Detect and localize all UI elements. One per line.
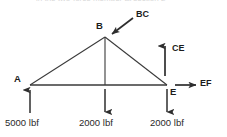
force-label-ef: EF bbox=[200, 79, 212, 88]
joint-label-e: E bbox=[170, 87, 176, 97]
bc-force-arrow bbox=[112, 18, 133, 34]
truss-free-body-diagram-figure: in the two-force member at section 2 bbox=[0, 0, 227, 137]
joint-label-b: B bbox=[96, 21, 103, 31]
applied-load-arrows bbox=[30, 89, 167, 113]
force-label-ce: CE bbox=[172, 44, 185, 53]
force-label-bc: BC bbox=[136, 10, 149, 19]
load-magnitude-e: 2000 lbf bbox=[150, 118, 184, 128]
load-magnitude-a: 5000 lbf bbox=[5, 118, 39, 128]
load-magnitude-center: 2000 lbf bbox=[79, 118, 113, 128]
joint-label-a: A bbox=[14, 74, 21, 84]
truss-members bbox=[30, 37, 167, 85]
member-be bbox=[105, 37, 167, 85]
member-ab bbox=[30, 37, 105, 85]
